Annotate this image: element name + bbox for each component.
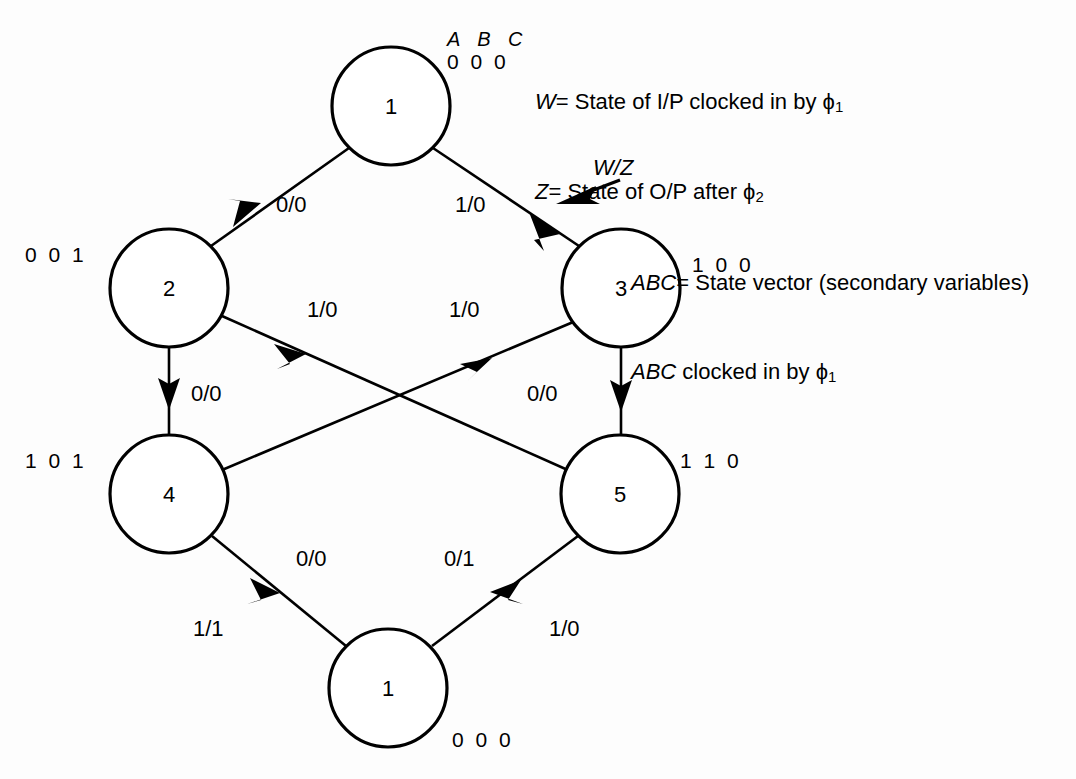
legend-sub-4: 1 — [828, 369, 836, 386]
legend-symbol-abc-1: ABC — [631, 270, 676, 295]
edge-4-to-bottom-label-outer: 1/1 — [193, 616, 224, 642]
node-4-state-vector: 1 0 1 — [25, 449, 87, 474]
node-4-label: 4 — [163, 482, 175, 508]
state-diagram-canvas: 1 2 3 4 5 1 A B C 0 0 0 0 0 1 1 0 0 1 0 … — [0, 0, 1076, 779]
legend-symbol-abc-2: ABC — [631, 359, 676, 384]
legend-text-3: = State vector (secondary variables) — [676, 270, 1029, 295]
edge-4-to-3-label: 1/0 — [449, 297, 480, 323]
edge-1-to-2-label: 0/0 — [276, 192, 307, 218]
legend-text-4: clocked in by ϕ — [676, 359, 828, 384]
legend-line-1: W= State of I/P clocked in by ϕ1 — [535, 87, 1029, 118]
legend-text-1: = State of I/P clocked in by ϕ — [556, 89, 835, 114]
abc-header-label: A B C — [447, 28, 529, 52]
node-top-label: 1 — [385, 94, 397, 120]
legend-line-4: ABC clocked in by ϕ1 — [535, 357, 1029, 388]
node-5-state-vector: 1 1 0 — [680, 449, 742, 474]
legend-symbol-w: W — [535, 89, 556, 114]
edge-2-to-4-label: 0/0 — [191, 381, 222, 407]
edge-5-to-bottom-label: 0/1 — [444, 546, 475, 572]
edge-2-to-5-label: 1/0 — [307, 297, 338, 323]
legend-text-2: = State of O/P after ϕ — [548, 179, 755, 204]
edge-2-to-4 — [158, 347, 180, 435]
legend-block: W= State of I/P clocked in by ϕ1 Z= Stat… — [535, 27, 1029, 448]
edge-1-to-3-label: 1/0 — [455, 192, 486, 218]
node-bottom-label: 1 — [382, 676, 394, 702]
edge-4-to-bottom-label: 0/0 — [296, 546, 327, 572]
legend-line-3: ABC= State vector (secondary variables) — [535, 268, 1029, 298]
node-bottom-state-vector: 0 0 0 — [452, 728, 514, 753]
legend-sub-1: 1 — [835, 98, 843, 115]
legend-line-2: Z= State of O/P after ϕ2 — [535, 177, 1029, 208]
edge-5-to-bottom-label-outer: 1/0 — [549, 616, 580, 642]
node-5-label: 5 — [614, 482, 626, 508]
legend-symbol-z: Z — [535, 179, 548, 204]
legend-sub-2: 2 — [755, 189, 763, 206]
node-2-state-vector: 0 0 1 — [25, 243, 87, 268]
node-2-label: 2 — [163, 276, 175, 302]
edge-4-to-3 — [222, 320, 578, 470]
node-top-state-vector: 0 0 0 — [447, 50, 509, 75]
